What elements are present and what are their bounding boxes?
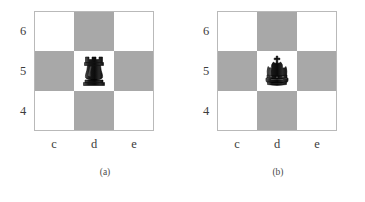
rank-label-5: 5 bbox=[14, 51, 32, 91]
square-c6[interactable] bbox=[218, 12, 257, 51]
rank-label-4: 4 bbox=[197, 91, 215, 131]
black-rook-icon[interactable] bbox=[74, 51, 113, 90]
square-d6[interactable] bbox=[257, 12, 296, 51]
square-c4[interactable] bbox=[35, 91, 74, 130]
square-c5[interactable] bbox=[218, 51, 257, 90]
file-label-row-a: c d e bbox=[34, 134, 154, 154]
file-label-c: c bbox=[34, 134, 74, 154]
square-c5[interactable] bbox=[35, 51, 74, 90]
square-e4[interactable] bbox=[297, 91, 336, 130]
black-king-icon[interactable] bbox=[257, 51, 296, 90]
square-d6[interactable] bbox=[74, 12, 113, 51]
rank-label-6: 6 bbox=[197, 11, 215, 51]
file-label-row-b: c d e bbox=[217, 134, 337, 154]
chessboard-b bbox=[217, 11, 337, 131]
chess-figure-a: 6 5 4 bbox=[0, 0, 182, 202]
square-d5[interactable] bbox=[257, 51, 296, 90]
rank-label-5: 5 bbox=[197, 51, 215, 91]
rank-label-column-b: 6 5 4 bbox=[197, 11, 215, 131]
square-d4[interactable] bbox=[257, 91, 296, 130]
chess-figure-b: 6 5 4 bbox=[183, 0, 365, 202]
file-label-d: d bbox=[74, 134, 114, 154]
square-c4[interactable] bbox=[218, 91, 257, 130]
square-e6[interactable] bbox=[114, 12, 153, 51]
caption-a: (a) bbox=[0, 168, 196, 178]
chess-figure-pair: 6 5 4 bbox=[0, 0, 365, 202]
square-e6[interactable] bbox=[297, 12, 336, 51]
square-d5[interactable] bbox=[74, 51, 113, 90]
caption-b: (b) bbox=[183, 168, 365, 178]
chessboard-a bbox=[34, 11, 154, 131]
file-label-e: e bbox=[114, 134, 154, 154]
rank-label-column-a: 6 5 4 bbox=[14, 11, 32, 131]
square-c6[interactable] bbox=[35, 12, 74, 51]
file-label-c: c bbox=[217, 134, 257, 154]
square-e5[interactable] bbox=[297, 51, 336, 90]
file-label-e: e bbox=[297, 134, 337, 154]
rank-label-6: 6 bbox=[14, 11, 32, 51]
square-e4[interactable] bbox=[114, 91, 153, 130]
square-d4[interactable] bbox=[74, 91, 113, 130]
file-label-d: d bbox=[257, 134, 297, 154]
square-e5[interactable] bbox=[114, 51, 153, 90]
rank-label-4: 4 bbox=[14, 91, 32, 131]
